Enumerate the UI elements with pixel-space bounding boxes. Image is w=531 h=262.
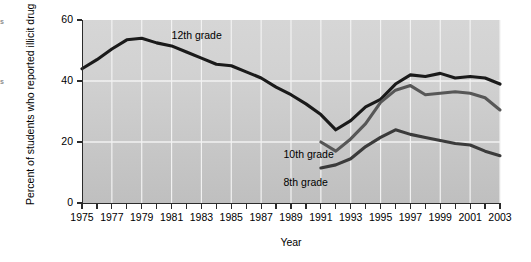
x-tick	[365, 204, 366, 209]
x-tick	[484, 204, 485, 209]
y-tick-label: 60	[33, 13, 73, 25]
x-tick	[201, 204, 202, 209]
x-tick	[455, 204, 456, 209]
x-tick	[171, 204, 172, 209]
x-tick	[126, 204, 127, 209]
y-tick-label: 20	[33, 135, 73, 147]
x-tick	[440, 204, 441, 209]
x-tick	[305, 204, 306, 209]
margin-fragment-4: s	[0, 78, 9, 86]
x-tick	[320, 204, 321, 209]
x-tick	[141, 204, 142, 209]
x-tick-label: 2003	[480, 211, 520, 223]
series-label-10th-grade: 10th grade	[284, 148, 334, 160]
y-tick-label: 40	[33, 74, 73, 86]
y-tick	[77, 80, 82, 81]
x-tick	[290, 204, 291, 209]
x-tick	[231, 204, 232, 209]
y-tick	[77, 141, 82, 142]
figure-illicit-drug-use: s s Percent of students who reported ill…	[0, 0, 531, 262]
x-tick	[350, 204, 351, 209]
x-tick	[275, 204, 276, 209]
x-tick	[335, 204, 336, 209]
margin-fragment-1: s	[0, 18, 9, 26]
x-tick	[499, 204, 500, 209]
x-tick	[216, 204, 217, 209]
x-axis-title: Year	[231, 236, 351, 248]
series-label-8th-grade: 8th grade	[284, 176, 328, 188]
y-tick-label: 0	[33, 196, 73, 208]
x-tick	[261, 204, 262, 209]
y-axis-title: Percent of students who reported illicit…	[24, 0, 36, 205]
x-tick	[395, 204, 396, 209]
x-tick	[410, 204, 411, 209]
x-tick	[246, 204, 247, 209]
x-tick	[156, 204, 157, 209]
series-label-12th-grade: 12th grade	[172, 29, 222, 41]
x-tick	[380, 204, 381, 209]
x-tick	[111, 204, 112, 209]
x-tick	[96, 204, 97, 209]
x-tick	[186, 204, 187, 209]
x-tick	[81, 204, 82, 209]
y-tick	[77, 19, 82, 20]
x-tick	[470, 204, 471, 209]
x-tick	[425, 204, 426, 209]
y-axis-spine	[82, 20, 83, 204]
